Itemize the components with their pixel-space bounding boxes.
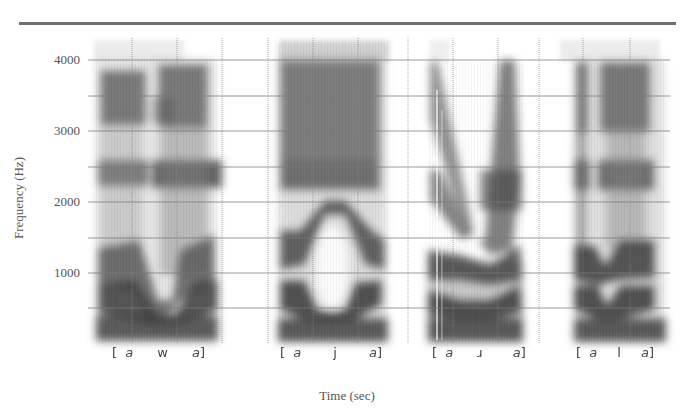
bracket-open: [ — [576, 345, 581, 360]
vowel-1: a — [589, 345, 597, 360]
segment-label-aja: [ a j a] — [280, 345, 382, 360]
consonant: w — [157, 345, 168, 360]
vowel-2: a — [192, 345, 200, 360]
bracket-close: ] — [377, 345, 382, 360]
bracket-open: [ — [112, 345, 117, 360]
consonant: l — [617, 345, 621, 360]
bracket-close: ] — [200, 345, 205, 360]
consonant: j — [333, 345, 337, 360]
vowel-2: a — [641, 345, 649, 360]
segment-label-ara: [ a ɹ a] — [432, 345, 526, 360]
vowel-2: a — [513, 345, 521, 360]
bracket-open: [ — [280, 345, 285, 360]
vowel-1: a — [293, 345, 301, 360]
segment-label-ala: [ a l a] — [576, 345, 654, 360]
bracket-close: ] — [649, 345, 654, 360]
segment-label-awa: [ a w a] — [112, 345, 205, 360]
bracket-open: [ — [432, 345, 437, 360]
x-axis-title: Time (sec) — [0, 388, 694, 404]
consonant: ɹ — [477, 345, 482, 360]
vowel-1: a — [125, 345, 133, 360]
bracket-close: ] — [521, 345, 526, 360]
vowel-1: a — [445, 345, 453, 360]
vowel-2: a — [369, 345, 377, 360]
glottal-striations — [96, 42, 666, 342]
